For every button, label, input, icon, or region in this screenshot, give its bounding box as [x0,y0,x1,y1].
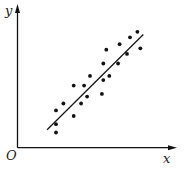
data-point [101,62,105,66]
x-axis-arrow-icon [168,145,177,150]
data-point [79,102,83,106]
data-point [101,78,105,82]
data-point [118,42,122,46]
y-axis-label: y [4,3,13,18]
trend-line [47,35,143,130]
data-point [54,109,58,113]
data-point [116,62,120,66]
data-point [104,48,108,52]
axes: y x O [4,3,177,166]
data-point [138,46,142,50]
data-point [72,114,76,118]
data-point [54,122,58,126]
data-point [107,74,111,78]
x-axis-label: x [163,151,171,166]
data-point [88,74,92,78]
data-points [54,30,142,135]
data-point [128,35,132,39]
data-point [136,30,140,34]
data-point [85,95,89,99]
origin-label: O [6,148,17,163]
data-point [82,84,86,88]
data-point [125,52,129,56]
data-point [100,92,104,96]
data-point [72,84,76,88]
y-axis-arrow-icon [15,4,20,13]
scatter-chart: y x O [0,0,186,178]
data-point [62,102,66,106]
data-point [54,131,58,135]
